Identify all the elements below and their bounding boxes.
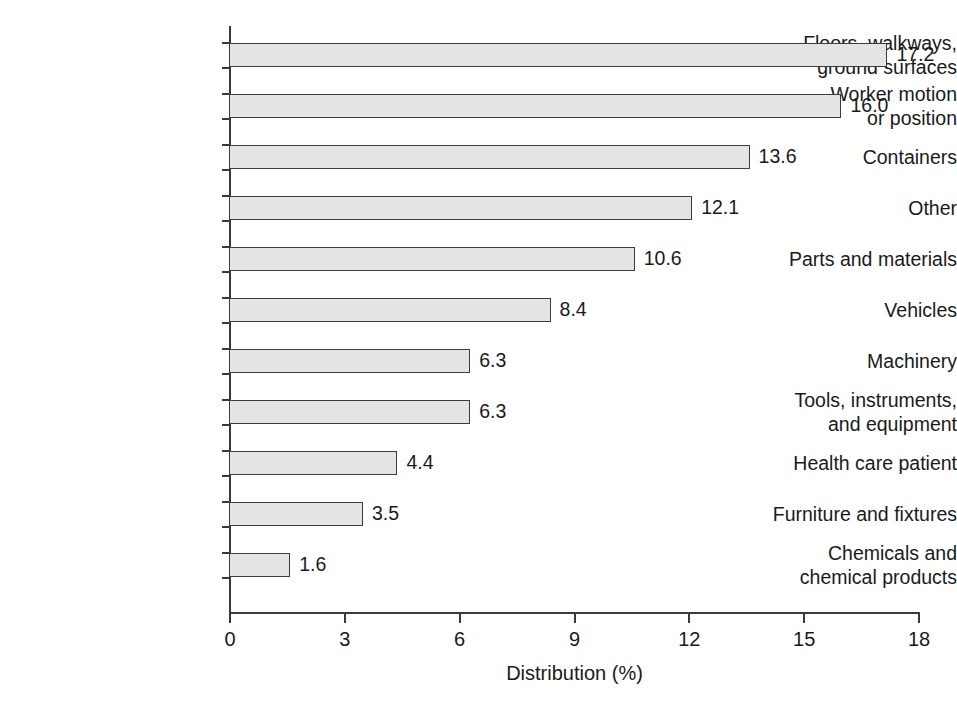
bar-row: 17.2 <box>229 30 918 81</box>
x-axis-tick-label: 9 <box>545 627 605 651</box>
x-axis-tick-label: 3 <box>315 627 375 651</box>
bar <box>229 349 470 373</box>
bar <box>229 247 635 271</box>
x-axis-tick-label: 12 <box>659 627 719 651</box>
bar-value-label: 3.5 <box>372 500 399 526</box>
bar-value-label: 6.3 <box>479 398 506 424</box>
bar <box>229 43 887 67</box>
bar-value-label: 6.3 <box>479 347 506 373</box>
bar-row: 16.0 <box>229 81 918 132</box>
bar-value-label: 8.4 <box>560 296 587 322</box>
x-axis-tick-label: 18 <box>889 627 949 651</box>
bar <box>229 400 470 424</box>
bar-row: 1.6 <box>229 540 918 591</box>
bar <box>229 196 692 220</box>
bar <box>229 451 397 475</box>
bar-row: 4.4 <box>229 438 918 489</box>
bar <box>229 94 841 118</box>
bar-row: 3.5 <box>229 489 918 540</box>
x-axis-tick <box>688 613 690 623</box>
x-axis-tick <box>803 613 805 623</box>
x-axis-tick <box>918 613 920 623</box>
bar-value-label: 16.0 <box>850 92 888 118</box>
bar-row: 10.6 <box>229 234 918 285</box>
bar-chart: Floors, walkways, ground surfacesWorker … <box>0 0 957 709</box>
x-axis-tick-label: 0 <box>200 627 260 651</box>
x-axis-title: Distribution (%) <box>229 661 920 685</box>
x-axis-tick <box>229 613 231 623</box>
bar-row: 13.6 <box>229 132 918 183</box>
bar-value-label: 10.6 <box>644 245 682 271</box>
bar-row: 8.4 <box>229 285 918 336</box>
bar <box>229 553 290 577</box>
bar-row: 6.3 <box>229 387 918 438</box>
bar-row: 6.3 <box>229 336 918 387</box>
bar-value-label: 4.4 <box>406 449 433 475</box>
bar-value-label: 17.2 <box>896 41 934 67</box>
bar-row: 12.1 <box>229 183 918 234</box>
x-axis-tick <box>459 613 461 623</box>
x-axis-tick-label: 6 <box>430 627 490 651</box>
x-axis-tick <box>574 613 576 623</box>
bar <box>229 145 750 169</box>
bar-value-label: 13.6 <box>759 143 797 169</box>
bar <box>229 502 363 526</box>
x-axis-tick-label: 15 <box>774 627 834 651</box>
bar-value-label: 12.1 <box>701 194 739 220</box>
bar <box>229 298 551 322</box>
x-axis-tick <box>344 613 346 623</box>
bar-value-label: 1.6 <box>299 551 326 577</box>
